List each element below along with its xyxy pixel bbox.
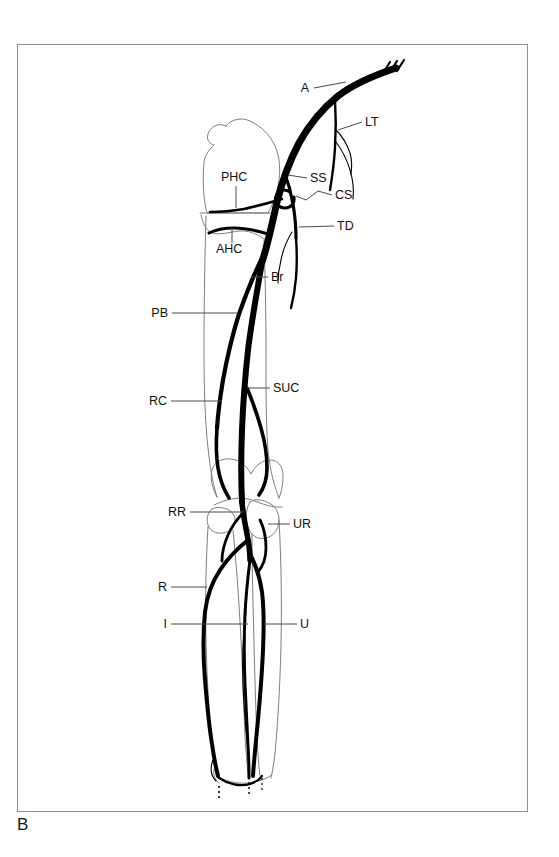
figure-panel: A LT SS CS TD PHC AHC Br PB RC SUC RR [0,0,559,857]
figure-border-frame [17,44,528,812]
panel-letter: B [17,816,29,833]
